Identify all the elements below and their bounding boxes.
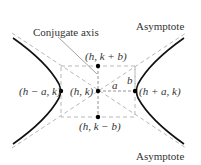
asymptote-top-label: Asymptote	[136, 20, 184, 32]
center-label: (h, k)	[70, 85, 94, 98]
covertex-top-label: (h, k + b)	[85, 50, 127, 63]
covertex-top-point	[96, 64, 100, 68]
asymptote-bottom-label: Asymptote	[136, 150, 184, 162]
b-label: b	[127, 74, 133, 86]
covertex-bottom-point	[96, 115, 100, 119]
covertex-bottom-label: (h, k − b)	[79, 120, 121, 133]
center-point	[96, 89, 100, 93]
vertex-right-point	[133, 89, 137, 93]
hyperbola-diagram: Conjugate axis Asymptote Asymptote (h, k…	[0, 0, 201, 165]
conjugate-axis-label: Conjugate axis	[33, 26, 99, 38]
a-label: a	[112, 79, 118, 91]
vertex-left-label: (h − a, k)	[19, 85, 61, 98]
vertex-right-label: (h + a, k)	[139, 85, 181, 98]
